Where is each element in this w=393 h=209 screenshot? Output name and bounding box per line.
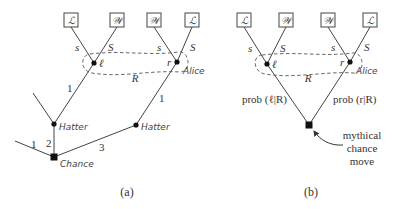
- player-alice: Alice: [182, 66, 205, 76]
- node-label-r: r: [167, 56, 172, 68]
- arrow-icon: [314, 131, 343, 145]
- node-chance: [51, 154, 58, 161]
- edge-label-1: 1: [67, 82, 73, 94]
- player-hatter: Hatter: [59, 122, 89, 132]
- info-set-label: R: [131, 72, 139, 84]
- annotation-line: chance: [347, 142, 378, 154]
- node-l: [91, 60, 96, 65]
- branch-label-S: S: [364, 41, 370, 53]
- branch-label-S: S: [190, 41, 196, 53]
- node-label-l: ℓ: [272, 58, 277, 70]
- edge-l-to-W: [94, 27, 117, 63]
- branch-label-s: s: [331, 41, 335, 53]
- edge-label-1: 1: [159, 92, 165, 104]
- node-l: [264, 61, 269, 66]
- annotation-line: move: [350, 155, 375, 167]
- caption-a: (a): [120, 185, 133, 199]
- node-label-r: r: [340, 56, 345, 68]
- payoff-L-text: ℒ: [189, 15, 197, 26]
- payoff-L-text: ℒ: [68, 15, 76, 26]
- player-chance: Chance: [60, 159, 94, 169]
- branch-label-s: s: [75, 41, 79, 53]
- edge-label-3: 3: [99, 141, 105, 153]
- edge-label-2: 2: [46, 137, 52, 149]
- edge-hatter-left-other: [33, 93, 54, 124]
- branch-label-s: s: [248, 42, 252, 54]
- panel-a: ℒ 𝒲 𝒲 ℒ s S s S ℓ r R Alice 1 1 1 2 3 Ha…: [15, 13, 205, 199]
- node-r: [174, 59, 179, 64]
- annotation-line: mythical: [343, 129, 382, 141]
- node-hatter-left: [51, 121, 56, 126]
- edge-label-1: 1: [31, 138, 37, 150]
- payoff-L-text: ℒ: [241, 15, 249, 26]
- node-hatter-right: [133, 122, 138, 127]
- prob-left-label: prob (ℓ|R): [242, 93, 287, 106]
- node-mythical-chance: [306, 122, 313, 129]
- node-r: [347, 59, 352, 64]
- edge-hatter-left-to-l: [54, 63, 94, 124]
- prob-right-label: prob (r|R): [333, 93, 377, 106]
- panel-b: ℒ 𝒲 𝒲 ℒ s S s S ℓ r R Alice prob (ℓ|R) p…: [237, 13, 381, 199]
- branch-label-S: S: [280, 42, 286, 54]
- branch-label-S: S: [108, 41, 114, 53]
- info-set-label: R: [304, 72, 312, 84]
- node-label-l: ℓ: [99, 57, 104, 69]
- branch-label-s: s: [157, 41, 161, 53]
- game-tree-figure: ℒ 𝒲 𝒲 ℒ s S s S ℓ r R Alice 1 1 1 2 3 Ha…: [0, 0, 393, 209]
- player-alice: Alice: [355, 66, 378, 76]
- caption-b: (b): [304, 185, 318, 199]
- player-hatter: Hatter: [141, 122, 171, 132]
- payoff-L-text: ℒ: [367, 15, 375, 26]
